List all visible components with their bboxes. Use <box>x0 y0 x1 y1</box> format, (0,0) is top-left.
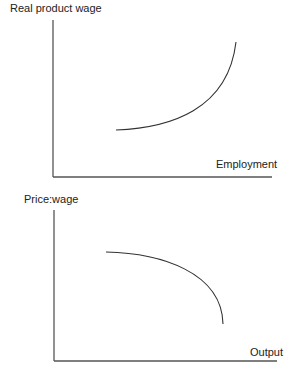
bottom-panel <box>54 210 277 361</box>
bottom-curve <box>106 252 223 324</box>
diagram-canvas <box>0 0 293 372</box>
top-curve <box>116 42 236 130</box>
top-panel <box>53 20 272 177</box>
